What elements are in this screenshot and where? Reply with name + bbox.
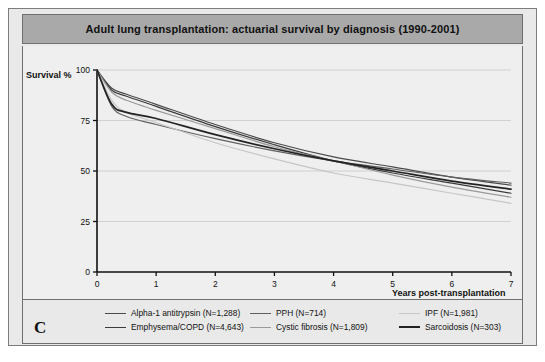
legend-item[interactable]: IPF (N=1,981) [399, 306, 501, 320]
legend-item[interactable]: PPH (N=714) [250, 306, 367, 320]
figure-panel: Adult lung transplantation: actuarial su… [0, 0, 545, 362]
x-axis-label: Years post-transplantation [392, 288, 506, 298]
chart-legend: Alpha-1 antitrypsin (N=1,288)Emphysema/C… [22, 300, 523, 344]
legend-item-label: Emphysema/COPD (N=4,643) [131, 322, 244, 332]
svg-text:3: 3 [272, 279, 277, 289]
svg-text:1: 1 [154, 279, 159, 289]
svg-text:25: 25 [81, 217, 91, 227]
svg-text:2: 2 [213, 279, 218, 289]
svg-text:0: 0 [95, 279, 100, 289]
legend-swatch-line-icon [105, 313, 126, 314]
legend-swatch-line-icon [105, 327, 126, 328]
svg-text:100: 100 [76, 65, 90, 75]
legend-item-label: Sarcoidosis (N=303) [425, 322, 501, 332]
legend-column: IPF (N=1,981)Sarcoidosis (N=303) [399, 306, 501, 334]
svg-text:75: 75 [81, 116, 91, 126]
legend-swatch-line-icon [399, 326, 420, 328]
axis-ticks [93, 70, 511, 276]
svg-text:4: 4 [331, 279, 336, 289]
svg-text:50: 50 [81, 166, 91, 176]
y-axis-label: Survival % [26, 70, 72, 80]
legend-item[interactable]: Alpha-1 antitrypsin (N=1,288) [105, 306, 244, 320]
legend-swatch-line-icon [250, 327, 271, 328]
svg-text:0: 0 [85, 267, 90, 277]
legend-item-label: Cystic fibrosis (N=1,809) [276, 322, 367, 332]
legend-swatch-line-icon [250, 313, 271, 314]
legend-item-label: PPH (N=714) [276, 308, 326, 318]
legend-item[interactable]: Sarcoidosis (N=303) [399, 320, 501, 334]
legend-column: Alpha-1 antitrypsin (N=1,288)Emphysema/C… [105, 306, 244, 334]
legend-item-label: IPF (N=1,981) [425, 308, 478, 318]
legend-swatch-line-icon [399, 313, 420, 314]
legend-item[interactable]: Emphysema/COPD (N=4,643) [105, 320, 244, 334]
svg-text:7: 7 [509, 279, 514, 289]
gridlines [97, 70, 511, 222]
data-curves [97, 70, 511, 203]
legend-column: PPH (N=714)Cystic fibrosis (N=1,809) [250, 306, 367, 334]
legend-item-label: Alpha-1 antitrypsin (N=1,288) [131, 308, 240, 318]
legend-item[interactable]: Cystic fibrosis (N=1,809) [250, 320, 367, 334]
